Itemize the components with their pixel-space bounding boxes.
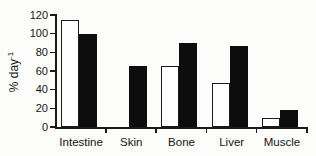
y-tick-label-60: 60 bbox=[14, 65, 48, 78]
x-tick-3 bbox=[206, 129, 208, 134]
bar-open-liver bbox=[212, 83, 230, 127]
bar-open-bone bbox=[161, 66, 179, 127]
bar-filled-bone bbox=[179, 43, 197, 127]
x-axis-line bbox=[55, 127, 308, 129]
x-tick-1 bbox=[105, 129, 107, 134]
bar-open-muscle bbox=[262, 118, 280, 127]
x-tick-5 bbox=[306, 129, 308, 134]
y-tick-label-100: 100 bbox=[14, 27, 48, 40]
bar-filled-muscle bbox=[280, 110, 298, 127]
x-tick-4 bbox=[256, 129, 258, 134]
y-tick-label-80: 80 bbox=[14, 46, 48, 59]
x-tick-2 bbox=[155, 129, 157, 134]
y-tick-label-0: 0 bbox=[14, 121, 48, 134]
bar-filled-intestine bbox=[79, 34, 97, 127]
x-category-label-muscle: Muscle bbox=[252, 136, 312, 148]
y-tick-label-40: 40 bbox=[14, 83, 48, 96]
bar-filled-skin bbox=[129, 66, 147, 127]
plot-area bbox=[56, 15, 307, 127]
bar-chart-figure: % day-1 020406080100120 IntestineSkinBon… bbox=[0, 0, 316, 156]
y-tick-label-20: 20 bbox=[14, 102, 48, 115]
y-tick-label-120: 120 bbox=[14, 9, 48, 22]
bar-open-intestine bbox=[61, 20, 79, 127]
bar-filled-liver bbox=[230, 46, 248, 127]
